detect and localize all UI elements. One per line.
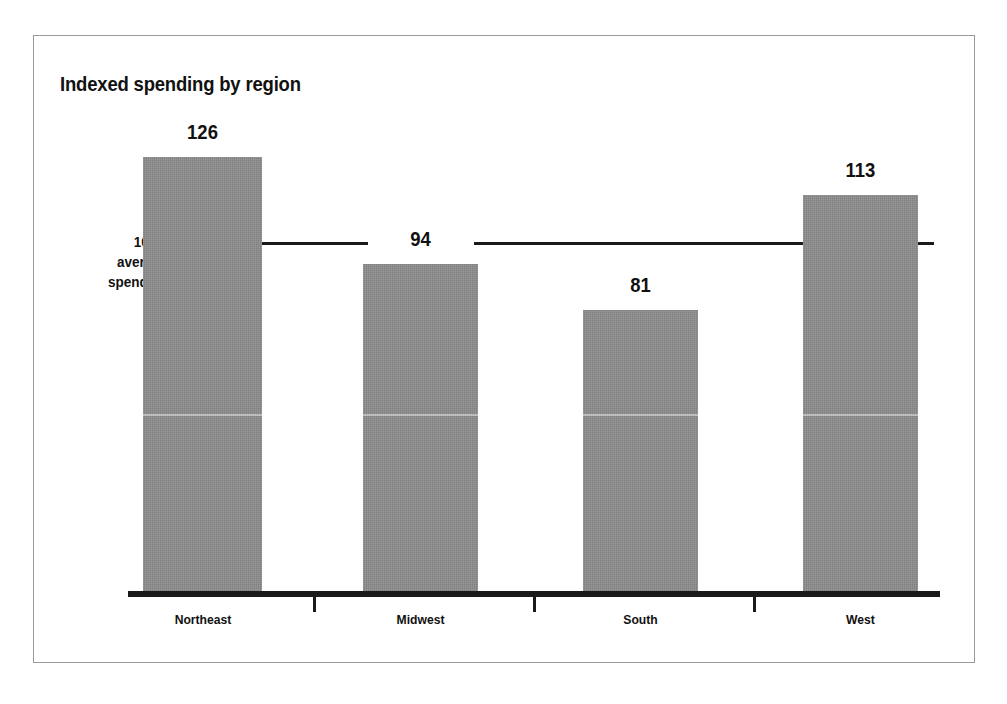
bar-midwest (363, 264, 478, 594)
reference-line-segment-left (256, 242, 368, 245)
figure-root: Indexed spending by region 100 = average… (0, 0, 1007, 704)
category-label-midwest: Midwest (360, 612, 482, 627)
bar-south (583, 310, 698, 594)
axis-tick-3 (753, 597, 756, 612)
axis-tick-1 (313, 597, 316, 612)
bar-value-west: 113 (810, 158, 911, 182)
axis-tick-2 (533, 597, 536, 612)
category-label-south: South (580, 612, 702, 627)
category-label-west: West (800, 612, 922, 627)
bar-value-midwest: 94 (370, 227, 471, 251)
category-label-northeast: Northeast (140, 612, 266, 627)
bar-value-northeast: 126 (150, 120, 255, 144)
bar-west (803, 195, 918, 594)
bar-value-south: 81 (590, 273, 691, 297)
bar-northeast (143, 157, 262, 594)
plot-area: 100 = average spending 126 94 81 113 Nor… (0, 0, 1007, 704)
